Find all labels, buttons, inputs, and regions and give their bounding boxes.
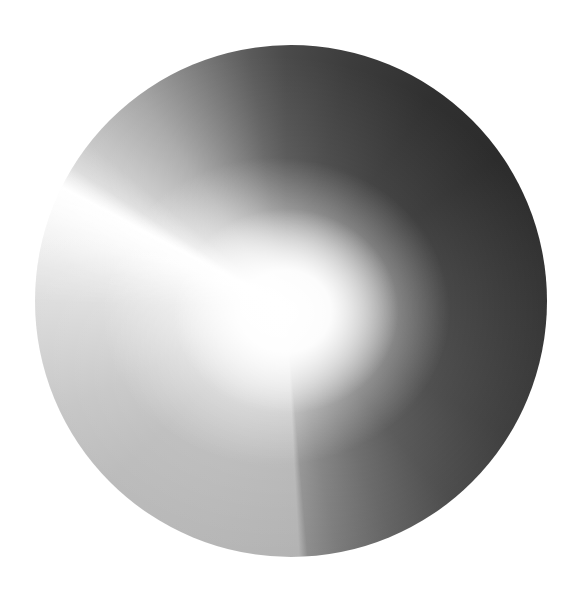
canvas: [0, 0, 579, 589]
center-highlight: [35, 45, 547, 557]
gradient-disc: [35, 45, 547, 557]
